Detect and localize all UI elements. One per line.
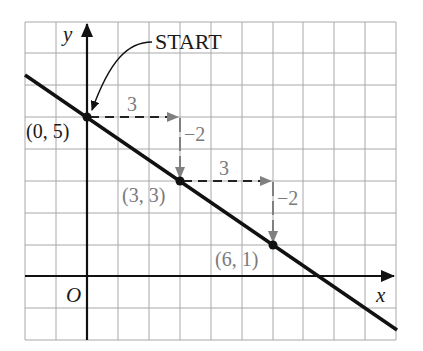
y-axis-label: y	[63, 24, 72, 45]
point-0-5	[83, 113, 92, 122]
point-6-1	[269, 241, 278, 250]
rise-label-1: −2	[184, 124, 205, 144]
point-label-0-5: (0, 5)	[26, 121, 69, 141]
point-3-3	[176, 177, 185, 186]
x-axis-label: x	[376, 285, 385, 306]
start-label: START	[155, 31, 222, 53]
point-label-6-1: (6, 1)	[215, 249, 258, 269]
run-label-1: 3	[127, 94, 137, 114]
rise-label-2: −2	[277, 188, 298, 208]
origin-label: O	[66, 285, 81, 306]
point-label-3-3: (3, 3)	[122, 185, 165, 205]
start-pointer-arrow	[92, 42, 152, 110]
run-label-2: 3	[219, 158, 229, 178]
